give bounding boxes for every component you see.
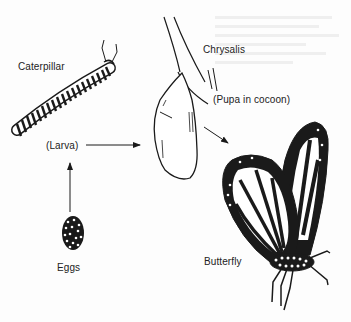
chrysalis-label: Chrysalis: [203, 44, 245, 55]
diagram-artwork: [0, 0, 351, 322]
chrysalis-illustration: [154, 17, 217, 179]
butterfly-illustration: [223, 122, 330, 310]
eggs-illustration: [62, 216, 84, 250]
eggs-label: Eggs: [57, 262, 80, 273]
caterpillar-label: Caterpillar: [18, 61, 65, 72]
larva-label: (Larva): [46, 140, 78, 151]
butterfly-label: Butterfly: [204, 256, 242, 267]
life-cycle-diagram: Caterpillar (Larva) Eggs Chrysalis (Pupa…: [0, 0, 351, 322]
caterpillar-illustration: [17, 40, 117, 136]
arrow-pupa-to-butterfly: [204, 127, 228, 143]
pupa-label: (Pupa in cocoon): [213, 94, 290, 105]
